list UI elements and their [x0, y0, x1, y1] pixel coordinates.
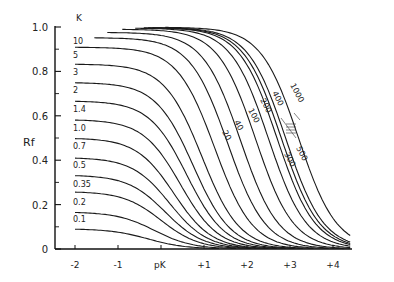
curve-k-0.5	[75, 176, 260, 249]
curve-label: 100	[246, 107, 261, 125]
x-tick-label: +2	[240, 260, 253, 270]
y-tick-label: 1.0	[32, 22, 48, 33]
curve-label: 400	[270, 90, 285, 108]
x-axis-label: pK	[154, 260, 167, 270]
x-tick-label: -1	[114, 260, 123, 270]
curve-label: 3	[73, 68, 78, 77]
curve-label: 2	[73, 86, 78, 95]
curve-label: 40	[232, 119, 245, 132]
y-tick-label: 0.4	[32, 155, 48, 166]
y-tick-label: 0.8	[32, 66, 48, 77]
y-tick-label: 0	[42, 244, 48, 255]
curve-label: 500	[294, 145, 309, 163]
curve-label: 1.0	[73, 124, 86, 133]
curve-label: 0.2	[73, 198, 86, 207]
x-tick-label: +3	[283, 260, 296, 270]
curve-k-0.35	[75, 192, 251, 248]
curve-label: 1000	[288, 82, 306, 104]
curves	[75, 27, 350, 248]
y-tick-label: 0.2	[32, 200, 48, 211]
curve-label: 200	[258, 97, 273, 115]
curve-label: 0.7	[73, 142, 86, 151]
right-curve-labels: 20401002004001000500300	[220, 82, 309, 169]
curve-label: 20	[220, 129, 233, 142]
curve-label: 5	[73, 51, 78, 60]
curve-label: 0.1	[73, 215, 86, 224]
y-axis-label: Rf	[23, 136, 36, 149]
curve-label: 10	[73, 37, 83, 46]
x-tick-label: -2	[71, 260, 80, 270]
curve-k-2	[75, 101, 294, 248]
curve-label: 0.5	[73, 161, 86, 170]
curve-label: 1.4	[73, 105, 86, 114]
y-ticks: 00.20.40.60.81.0	[32, 22, 61, 255]
rf-vs-pk-chart: 00.20.40.60.81.0 -2-1+1+2+3+4 Rf pK K 10…	[0, 0, 394, 282]
y-tick-label: 0.6	[32, 111, 48, 122]
curve-k-20	[94, 38, 343, 249]
curve-k-500	[152, 28, 350, 242]
curve-k-0.7	[75, 158, 269, 248]
curve-label: 0.35	[73, 180, 91, 189]
curve-k-300	[144, 28, 350, 245]
legend-title: K	[76, 13, 83, 23]
x-tick-label: +1	[197, 260, 210, 270]
x-tick-label: +4	[326, 260, 340, 270]
